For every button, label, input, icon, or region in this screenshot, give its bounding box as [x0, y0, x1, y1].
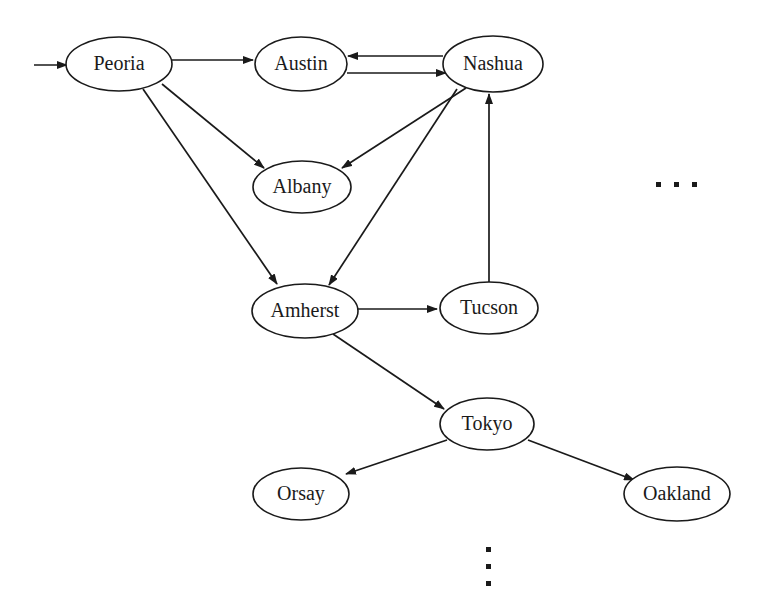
nodes-layer: Peoria Austin Nashua Albany Amherst Tucs [66, 36, 730, 521]
node-albany[interactable]: Albany [253, 161, 351, 213]
edge-amherst-to-tokyo[interactable] [333, 334, 444, 409]
graph-svg: Peoria Austin Nashua Albany Amherst Tucs [0, 0, 758, 612]
edge-peoria-to-albany[interactable] [162, 84, 264, 168]
horizontal-ellipsis-icon [656, 182, 697, 187]
node-austin[interactable]: Austin [255, 37, 347, 91]
node-oakland-label: Oakland [643, 482, 711, 504]
node-tucson-label: Tucson [460, 296, 518, 318]
node-austin-label: Austin [274, 52, 327, 74]
edge-tokyo-to-oakland[interactable] [528, 440, 634, 480]
node-oakland[interactable]: Oakland [624, 467, 730, 521]
node-nashua[interactable]: Nashua [443, 36, 543, 92]
node-amherst[interactable]: Amherst [252, 284, 358, 338]
node-nashua-label: Nashua [463, 52, 523, 74]
vertical-ellipsis-icon [486, 547, 491, 586]
node-peoria[interactable]: Peoria [66, 37, 172, 91]
edge-tokyo-to-orsay[interactable] [346, 440, 447, 474]
edge-nashua-to-albany[interactable] [342, 88, 466, 168]
node-tokyo[interactable]: Tokyo [440, 398, 534, 450]
node-orsay[interactable]: Orsay [253, 468, 349, 520]
node-orsay-label: Orsay [277, 482, 325, 505]
edges-layer [34, 56, 634, 480]
graph-diagram-canvas: Peoria Austin Nashua Albany Amherst Tucs [0, 0, 758, 612]
node-peoria-label: Peoria [93, 52, 144, 74]
node-tucson[interactable]: Tucson [440, 282, 538, 334]
node-tokyo-label: Tokyo [462, 412, 513, 435]
node-amherst-label: Amherst [271, 299, 340, 321]
node-albany-label: Albany [273, 175, 332, 198]
